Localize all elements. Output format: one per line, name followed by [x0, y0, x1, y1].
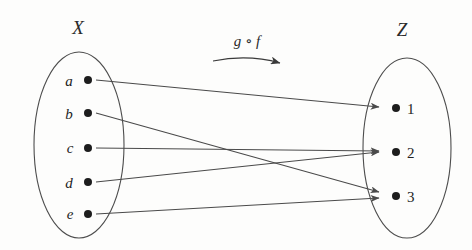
composition-label-group: g ∘ f [213, 33, 280, 63]
element-label-b: b [65, 106, 73, 122]
set-x-group: X a b c d e [34, 17, 124, 238]
element-dot-e [84, 210, 92, 218]
element-dot-c [84, 144, 92, 152]
element-dot-b [84, 109, 92, 117]
element-dot-d [84, 178, 92, 186]
arrow-a-to-1 [96, 80, 379, 107]
element-label-d: d [65, 175, 73, 191]
arrow-b-to-3 [96, 113, 379, 192]
set-z-group: Z 1 2 3 [363, 19, 451, 238]
element-label-3: 3 [407, 189, 415, 205]
set-x-ellipse [34, 52, 124, 238]
element-label-2: 2 [407, 145, 415, 161]
arrow-e-to-3 [96, 198, 379, 214]
mapping-arrows-group [96, 80, 379, 214]
element-dot-3 [392, 192, 400, 200]
element-label-e: e [67, 206, 74, 222]
diagram-canvas: X a b c d e Z [0, 0, 472, 250]
element-dot-1 [392, 104, 400, 112]
set-x-elements: a b c d e [65, 73, 92, 222]
set-z-elements: 1 2 3 [392, 101, 415, 205]
element-label-1: 1 [407, 101, 415, 117]
element-dot-2 [392, 148, 400, 156]
element-label-c: c [67, 140, 74, 156]
composition-label: g ∘ f [234, 33, 262, 49]
set-x-label: X [71, 17, 85, 38]
mapping-diagram: X a b c d e Z [0, 0, 472, 250]
arrow-c-to-2 [96, 148, 379, 151]
arrow-d-to-2 [96, 152, 379, 182]
element-dot-a [84, 76, 92, 84]
set-z-label: Z [397, 19, 408, 40]
composition-direction-arrow-icon [213, 58, 280, 63]
element-label-a: a [65, 73, 73, 89]
